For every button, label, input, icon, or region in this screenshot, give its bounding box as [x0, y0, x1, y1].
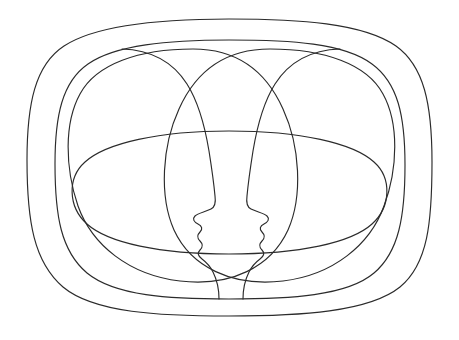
line-drawing-canvas: Two Mirrored Face Profiles Within Nested… [0, 0, 459, 340]
canvas-background [0, 0, 459, 340]
artboard: Two Mirrored Face Profiles Within Nested… [0, 0, 459, 340]
